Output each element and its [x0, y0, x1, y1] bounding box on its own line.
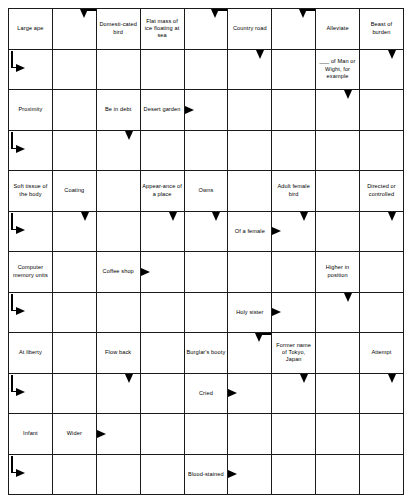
answer-cell[interactable] [272, 373, 316, 414]
clue-text: Flow back [97, 349, 140, 356]
clue-text: Flat mass of ice floating at sea [141, 18, 184, 40]
answer-cell[interactable] [140, 252, 184, 293]
crossword-row: Cried [9, 373, 404, 414]
shaded-cell[interactable] [52, 333, 96, 374]
answer-cell[interactable] [272, 292, 316, 333]
clue-cell: Adult female bird [272, 171, 316, 212]
clue-text: Country road [228, 25, 271, 32]
answer-cell[interactable] [228, 333, 272, 374]
clue-text: Higher in position [316, 264, 359, 279]
answer-cell[interactable] [228, 49, 272, 90]
clue-cell: Attempt [360, 333, 404, 374]
answer-cell[interactable] [316, 211, 360, 252]
answer-cell[interactable] [272, 9, 316, 50]
answer-cell[interactable] [228, 90, 272, 131]
answer-cell[interactable] [96, 130, 140, 171]
answer-cell[interactable] [96, 373, 140, 414]
answer-cell[interactable] [272, 49, 316, 90]
clue-cell: Coffee shop [96, 252, 140, 293]
answer-cell[interactable] [52, 130, 96, 171]
answer-cell[interactable] [140, 49, 184, 90]
answer-cell[interactable] [228, 373, 272, 414]
clue-text: Desert garden [141, 106, 184, 113]
answer-cell[interactable] [140, 211, 184, 252]
answer-cell[interactable] [228, 454, 272, 495]
answer-cell[interactable] [184, 252, 228, 293]
answer-cell[interactable] [52, 373, 96, 414]
arrow-down-icon [125, 374, 133, 383]
answer-cell[interactable] [9, 292, 53, 333]
clue-text: Be in debt [97, 106, 140, 113]
answer-cell[interactable] [140, 454, 184, 495]
clue-cell: Wider [52, 414, 96, 455]
clue-cell: Owns [184, 171, 228, 212]
answer-cell[interactable] [52, 252, 96, 293]
answer-cell[interactable] [316, 373, 360, 414]
answer-cell[interactable] [272, 211, 316, 252]
answer-cell[interactable] [9, 454, 53, 495]
answer-cell[interactable] [184, 414, 228, 455]
answer-cell[interactable] [184, 211, 228, 252]
answer-cell[interactable] [228, 414, 272, 455]
answer-cell[interactable] [360, 90, 404, 131]
answer-cell[interactable] [316, 414, 360, 455]
answer-cell[interactable] [52, 9, 96, 50]
answer-cell[interactable] [96, 171, 140, 212]
answer-cell[interactable] [52, 90, 96, 131]
answer-cell[interactable] [140, 414, 184, 455]
answer-cell[interactable] [360, 373, 404, 414]
answer-cell[interactable] [228, 130, 272, 171]
arrow-down-icon [300, 212, 308, 221]
crossword-row [9, 130, 404, 171]
answer-cell[interactable] [272, 252, 316, 293]
answer-cell[interactable] [184, 130, 228, 171]
answer-cell[interactable] [96, 49, 140, 90]
answer-cell[interactable] [272, 130, 316, 171]
answer-cell[interactable] [52, 454, 96, 495]
answer-cell[interactable] [52, 49, 96, 90]
answer-cell[interactable] [316, 130, 360, 171]
answer-cell[interactable] [52, 292, 96, 333]
crossword-row: Computer memory unitsCoffee shopHigher i… [9, 252, 404, 293]
answer-cell[interactable] [360, 252, 404, 293]
answer-cell[interactable] [228, 171, 272, 212]
answer-cell[interactable] [272, 454, 316, 495]
answer-cell[interactable] [9, 373, 53, 414]
shaded-cell[interactable] [96, 211, 140, 252]
answer-cell[interactable] [360, 414, 404, 455]
shaded-cell[interactable] [360, 292, 404, 333]
answer-cell[interactable] [140, 130, 184, 171]
answer-cell[interactable] [140, 292, 184, 333]
answer-cell[interactable] [96, 454, 140, 495]
clue-cell: Flow back [96, 333, 140, 374]
shaded-cell[interactable] [272, 414, 316, 455]
answer-cell[interactable] [9, 211, 53, 252]
answer-cell[interactable] [9, 130, 53, 171]
answer-cell[interactable] [96, 292, 140, 333]
crossword-row: ___ of Man or Wight, for example [9, 49, 404, 90]
answer-cell[interactable] [316, 333, 360, 374]
shaded-cell[interactable] [9, 49, 53, 90]
answer-cell[interactable] [96, 414, 140, 455]
answer-cell[interactable] [228, 252, 272, 293]
answer-cell[interactable] [316, 454, 360, 495]
answer-cell[interactable] [140, 333, 184, 374]
arrow-down-icon [344, 293, 352, 302]
answer-cell[interactable] [184, 9, 228, 50]
answer-cell[interactable] [52, 211, 96, 252]
answer-cell[interactable] [184, 49, 228, 90]
answer-cell[interactable] [184, 292, 228, 333]
answer-cell[interactable] [316, 171, 360, 212]
shaded-cell[interactable] [316, 90, 360, 131]
clue-cell: Large ape [9, 9, 53, 50]
answer-cell[interactable] [360, 211, 404, 252]
answer-cell[interactable] [316, 292, 360, 333]
arrow-down-then-right-icon [11, 132, 27, 154]
answer-cell[interactable] [360, 49, 404, 90]
answer-cell[interactable] [140, 373, 184, 414]
answer-cell[interactable] [360, 454, 404, 495]
answer-cell[interactable] [184, 90, 228, 131]
answer-cell[interactable] [360, 130, 404, 171]
answer-cell[interactable] [272, 90, 316, 131]
